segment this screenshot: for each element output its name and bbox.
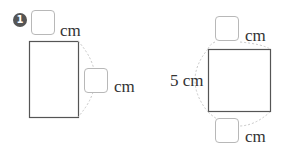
square-shape bbox=[209, 50, 271, 112]
unit-label: cm bbox=[114, 78, 135, 95]
unit-label: cm bbox=[245, 27, 266, 44]
rectangle-shape bbox=[30, 42, 79, 118]
unit-label: cm bbox=[245, 128, 266, 145]
answer-box-square-bottom[interactable] bbox=[215, 118, 239, 143]
given-side-label: 5 cm bbox=[170, 72, 204, 89]
answer-box-rect-side[interactable] bbox=[84, 68, 108, 93]
answer-box-rect-top[interactable] bbox=[31, 10, 55, 35]
problem-number-marker: 1 bbox=[13, 13, 27, 27]
answer-box-square-top[interactable] bbox=[215, 16, 239, 41]
unit-label: cm bbox=[60, 22, 81, 39]
